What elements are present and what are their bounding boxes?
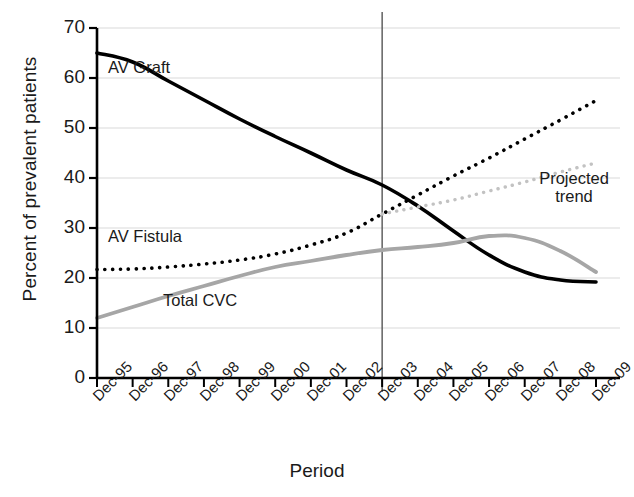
- projected-trend-label-line2: trend: [555, 187, 593, 205]
- series-av-graft: [97, 53, 596, 282]
- projected-trend-series-label: Projectedtrend: [526, 170, 622, 206]
- x-axis-title: Period: [0, 460, 634, 482]
- projected-trend-label-line1: Projected: [539, 169, 609, 187]
- y-axis-title: Percent of prevalent patients: [19, 0, 41, 359]
- chart-container: 706050403020100 Dec-95Dec-96Dec-97Dec-98…: [0, 0, 634, 497]
- av-fistula-series-label: AV Fistula: [108, 227, 182, 246]
- chart-plot-area: [0, 0, 634, 497]
- av-graft-series-label: AV Graft: [108, 58, 170, 77]
- y-tick-label: 0: [31, 366, 85, 388]
- total-cvc-series-label: Total CVC: [163, 291, 237, 310]
